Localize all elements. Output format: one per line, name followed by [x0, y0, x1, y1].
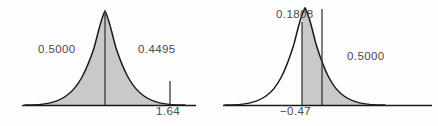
z-tick-label-164: 1.64	[156, 105, 180, 117]
right-normal-curve-panel: 0.1808 0.5000 −0.47	[219, 0, 438, 126]
area-label-neg047-to-mean: 0.1808	[276, 8, 314, 20]
left-curve-svg	[0, 0, 219, 126]
right-curve-svg	[219, 0, 438, 126]
normal-distribution-figure: 0.5000 0.4495 1.64 0.1808 0.5000 −0.4	[0, 0, 438, 126]
area-label-left-half: 0.5000	[38, 43, 76, 55]
area-label-mean-to-164: 0.4495	[138, 43, 176, 55]
area-label-right-half: 0.5000	[347, 50, 385, 62]
left-normal-curve-panel: 0.5000 0.4495 1.64	[0, 0, 219, 126]
z-tick-label-neg047: −0.47	[280, 105, 311, 117]
